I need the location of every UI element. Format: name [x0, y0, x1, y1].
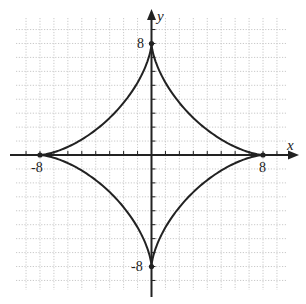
astroid-plot: x y 8 -8 -8 8: [0, 0, 306, 304]
x-axis-label: x: [286, 137, 294, 153]
y-axis-arrow-icon: [147, 9, 156, 20]
point-marker: [149, 264, 154, 269]
tick-label-x-neg8: -8: [31, 160, 43, 175]
point-marker: [37, 152, 42, 157]
tick-label-x-8: 8: [259, 160, 266, 175]
y-axis-label: y: [155, 8, 164, 24]
point-marker: [149, 41, 154, 46]
tick-label-y-neg8: -8: [131, 259, 143, 274]
point-marker: [260, 152, 265, 157]
tick-label-y-8: 8: [137, 36, 144, 51]
